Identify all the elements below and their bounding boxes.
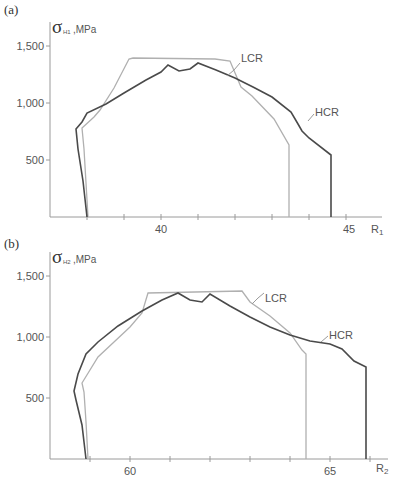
y-axis-label-b-symbol: σ: [52, 246, 62, 267]
y-axis-label-b-subscript: H2: [63, 259, 71, 265]
y-tick-label-a: 1,500: [16, 40, 44, 52]
series-label-lcr-b: LCR: [265, 292, 287, 304]
y-axis-label-a-unit: ,MPa: [73, 24, 97, 35]
y-tick-label-b: 500: [26, 392, 44, 404]
series-label-hcr-b: HCR: [329, 329, 353, 341]
series-hcr-a: [76, 63, 331, 217]
chart-b: (b) σ H2 ,MPa 1,500 1,000 500 60 65 R 2: [4, 236, 389, 477]
series-label-hcr-a: HCR: [315, 106, 339, 118]
y-tick-label-b: 1,000: [16, 331, 44, 343]
x-tick-label-b: 65: [324, 465, 336, 477]
series-label-lcr-a: LCR: [241, 52, 263, 64]
x-tick-label-b: 60: [124, 465, 136, 477]
x-tick-label-a: 40: [155, 223, 167, 235]
x-axis-label-b-subscript: 2: [384, 467, 389, 476]
x-tick-label-a: 45: [343, 223, 355, 235]
panel-label-b: (b): [4, 236, 19, 251]
series-lcr-b: [82, 291, 306, 459]
y-tick-label-b: 1,500: [16, 270, 44, 282]
series-hcr-b: [74, 293, 366, 459]
y-tick-label-a: 1,000: [16, 97, 44, 109]
panel-label-a: (a): [4, 2, 18, 17]
y-axis-label-a-subscript: H1: [63, 29, 71, 35]
chart-a: (a) σ H1 ,MPa 1,500 1,000 500 40 45 R 1: [4, 2, 384, 237]
x-axis-label-a-subscript: 1: [379, 228, 384, 237]
leader-lcr-b: [252, 293, 264, 304]
x-axis-label-a: R: [371, 223, 379, 235]
figure: (a) σ H1 ,MPa 1,500 1,000 500 40 45 R 1: [0, 0, 405, 486]
y-axis-label-a-symbol: σ: [52, 16, 62, 37]
y-axis-label-b-unit: ,MPa: [73, 254, 97, 265]
y-tick-label-a: 500: [26, 154, 44, 166]
leader-hcr-b: [321, 336, 328, 342]
series-lcr-a: [82, 58, 289, 217]
leader-hcr-a: [308, 114, 314, 121]
x-axis-label-b: R: [376, 462, 384, 474]
